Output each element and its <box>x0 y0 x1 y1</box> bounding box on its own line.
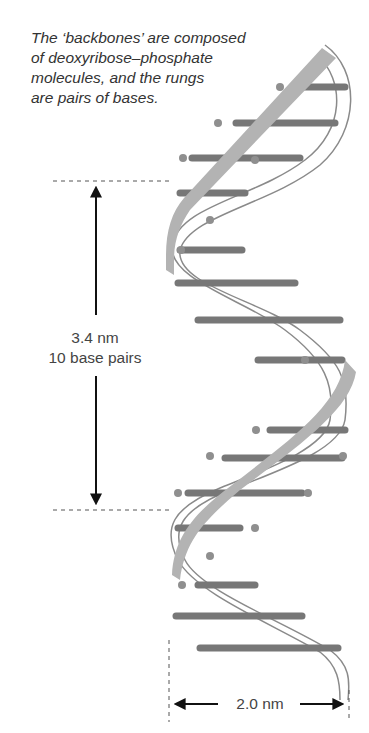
caption-line: molecules, and the rungs <box>31 68 291 88</box>
caption-line: of deoxyribose–phosphate <box>31 48 291 68</box>
caption-text: The ‘backbones’ are composed of deoxyrib… <box>31 28 291 108</box>
caption-line: are pairs of bases. <box>31 88 291 108</box>
dashed-guides <box>53 181 349 722</box>
width-label: 2.0 nm <box>220 694 300 714</box>
pitch-value: 3.4 nm <box>30 328 160 348</box>
pitch-base-pairs: 10 base pairs <box>30 348 160 368</box>
pitch-label: 3.4 nm 10 base pairs <box>30 328 160 368</box>
back-backbone-strand <box>171 45 351 700</box>
caption-line: The ‘backbones’ are composed <box>31 28 291 48</box>
